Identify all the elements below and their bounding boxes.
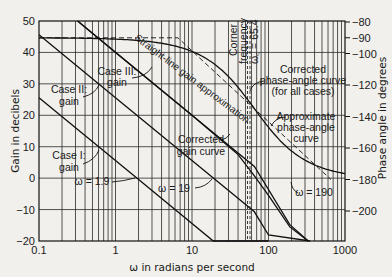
- approx-phase-label-3: curve: [293, 132, 319, 144]
- y2-tick-label: −120: [352, 79, 377, 91]
- case2-label-2: gain: [59, 95, 79, 107]
- corrected-gain-label-2: gain curve: [177, 145, 226, 157]
- omega-190-label: ω = 190: [295, 186, 333, 198]
- x-tick-label: 10: [186, 244, 198, 256]
- y-tick-label: 40: [23, 46, 35, 58]
- y-tick-label: 0: [29, 172, 35, 184]
- bode-plot: 50403020100−10−20 −80−90−100−120−140−160…: [0, 0, 392, 277]
- corrected-gain-label: Corrected: [178, 133, 224, 145]
- y2-tick-label: −140: [352, 111, 377, 123]
- omega-19-arrow: [195, 179, 212, 188]
- case2-label: Case II:: [51, 83, 87, 95]
- y-tick-label: −10: [16, 204, 35, 216]
- y-tick-label: 10: [23, 141, 35, 153]
- corrected-phase-label-3: (for all cases): [271, 85, 334, 97]
- y-tick-label: 50: [23, 15, 35, 27]
- y2-tick-label: −200: [352, 205, 377, 217]
- omega-19-label: ω = 19: [158, 182, 190, 194]
- x-tick-label: 0.1: [31, 244, 46, 256]
- omega-1-9-label: ω = 1.9: [75, 175, 110, 187]
- x-tick-label: 1000: [333, 244, 357, 256]
- y-tick-label: 20: [23, 109, 35, 121]
- y2-tick-label: −180: [352, 174, 377, 186]
- y2-axis-title: Phase angle in degrees: [376, 57, 388, 179]
- y2-tick-label: −100: [352, 48, 377, 60]
- y-tick-label: 30: [23, 78, 35, 90]
- case3-label-2: gain: [107, 76, 127, 88]
- corner-frequency-value: ω꜀ = 65.4: [248, 19, 260, 64]
- y-axis-title: Gain in decibels: [9, 89, 21, 173]
- x-axis-ticks: 0.11101001000: [31, 244, 357, 256]
- x-tick-label: 1: [112, 244, 118, 256]
- annotations: Case I: gain Case II: gain Case III: gai…: [51, 17, 346, 198]
- case1-label-2: gain: [59, 161, 79, 173]
- y2-tick-label: −160: [352, 142, 377, 154]
- case1-label: Case I:: [52, 149, 85, 161]
- x-tick-label: 100: [259, 244, 277, 256]
- y2-tick-label: −90: [352, 32, 371, 44]
- y2-axis-ticks: −80−90−100−120−140−160−180−200: [345, 16, 377, 217]
- y2-tick-label: −80: [352, 16, 371, 28]
- x-axis-title: ω in radians per second: [129, 261, 255, 273]
